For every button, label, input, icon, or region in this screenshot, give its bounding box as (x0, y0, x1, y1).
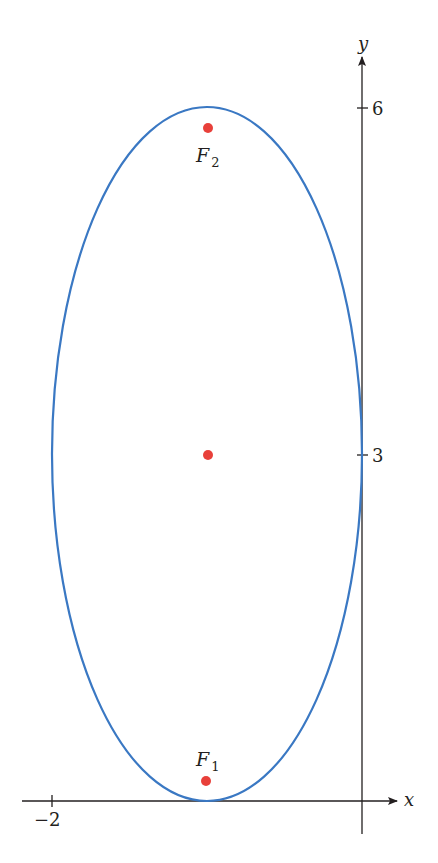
f1-label: F1 (195, 748, 219, 774)
y-tick-label-6: 6 (372, 98, 383, 119)
y-axis-label: y (357, 33, 369, 54)
x-axis-label: x (404, 789, 414, 810)
y-tick-label-3: 3 (372, 445, 383, 466)
focus-f2-point (203, 123, 213, 133)
focus-f1-point (201, 776, 211, 786)
center-point (203, 450, 213, 460)
x-tick-label-neg2: −2 (34, 809, 61, 830)
ellipse-chart: −2 6 3 x y F2 F1 (0, 0, 438, 863)
f2-label: F2 (195, 144, 219, 170)
